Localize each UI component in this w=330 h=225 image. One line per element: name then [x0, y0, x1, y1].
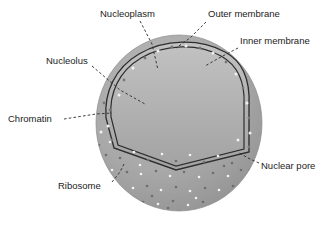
- label-inner-membrane: Inner membrane: [240, 35, 310, 46]
- label-ribosome: Ribosome: [58, 180, 101, 191]
- label-nucleoplasm: Nucleoplasm: [100, 8, 155, 19]
- label-nuclear-pore: Nuclear pore: [261, 160, 315, 171]
- label-chromatin: Chromatin: [8, 113, 52, 124]
- label-nucleolus: Nucleolus: [46, 55, 88, 66]
- label-outer-membrane: Outer membrane: [208, 8, 280, 19]
- diagram-canvas: Nucleoplasm Outer membrane Inner membran…: [0, 0, 330, 225]
